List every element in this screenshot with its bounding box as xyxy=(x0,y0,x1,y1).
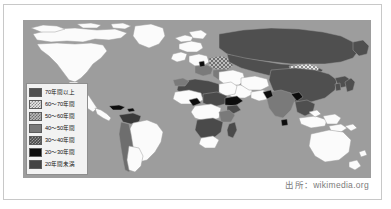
legend-swatch-20-30 xyxy=(29,148,42,157)
legend-swatch-70plus xyxy=(29,88,42,97)
legend-item: 40〜50年間 xyxy=(29,122,85,134)
legend-swatch-60-70 xyxy=(29,100,42,109)
figure-card: 70年間以上 60〜70年間 50〜60年間 40〜50年間 30〜40年間 2… xyxy=(3,4,382,200)
legend-swatch-30-40 xyxy=(29,136,42,145)
legend-item: 30〜40年間 xyxy=(29,134,85,146)
legend-item: 70年間以上 xyxy=(29,86,85,98)
legend-item: 20年間未満 xyxy=(29,158,85,170)
legend-item: 20〜30年間 xyxy=(29,146,85,158)
legend-item: 50〜60年間 xyxy=(29,110,85,122)
legend-item: 60〜70年間 xyxy=(29,98,85,110)
map-figure: 70年間以上 60〜70年間 50〜60年間 40〜50年間 30〜40年間 2… xyxy=(23,20,371,178)
legend-label: 20〜30年間 xyxy=(45,148,75,157)
source-attribution: 出所：wikimedia.org xyxy=(285,178,369,190)
legend-swatch-50-60 xyxy=(29,112,42,121)
legend-label: 30〜40年間 xyxy=(45,136,75,145)
legend-label: 60〜70年間 xyxy=(45,100,75,109)
legend-label: 50〜60年間 xyxy=(45,112,75,121)
map-legend: 70年間以上 60〜70年間 50〜60年間 40〜50年間 30〜40年間 2… xyxy=(26,83,88,175)
legend-label: 70年間以上 xyxy=(45,88,75,97)
legend-swatch-40-50 xyxy=(29,124,42,133)
legend-swatch-under20 xyxy=(29,160,42,169)
legend-label: 20年間未満 xyxy=(45,160,75,169)
legend-label: 40〜50年間 xyxy=(45,124,75,133)
